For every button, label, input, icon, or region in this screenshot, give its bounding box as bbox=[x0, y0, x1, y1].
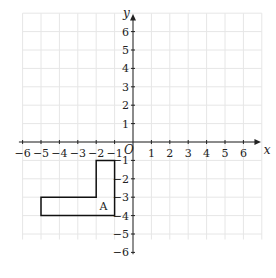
x-tick-label: −3 bbox=[70, 147, 86, 160]
x-tick-label: 2 bbox=[166, 147, 173, 160]
y-tick-label: −5 bbox=[113, 228, 129, 241]
x-tick-label: 4 bbox=[203, 147, 210, 160]
y-tick-label: 4 bbox=[122, 62, 129, 75]
y-tick-label: 1 bbox=[122, 118, 129, 131]
origin-label: O bbox=[124, 143, 134, 157]
y-axis-arrow-icon bbox=[130, 14, 136, 20]
x-tick-label: 3 bbox=[185, 147, 192, 160]
x-tick-label: 6 bbox=[240, 147, 247, 160]
y-tick-label: 6 bbox=[122, 26, 129, 39]
x-tick-label: 1 bbox=[148, 147, 155, 160]
shape-a-label: A bbox=[99, 200, 109, 213]
y-tick-label: 5 bbox=[122, 44, 129, 57]
x-axis-label: x bbox=[264, 143, 271, 157]
coordinate-grid-diagram: −6−5−4−3−2−1123456654321−1−2−3−4−5−6xyOA bbox=[0, 0, 276, 278]
y-axis-label: y bbox=[122, 6, 130, 20]
x-axis-arrow-icon bbox=[254, 139, 260, 145]
x-tick-label: −5 bbox=[33, 147, 49, 160]
plot-svg: −6−5−4−3−2−1123456654321−1−2−3−4−5−6xyOA bbox=[0, 0, 276, 278]
y-tick-label: 2 bbox=[122, 99, 129, 112]
x-tick-label: 5 bbox=[222, 147, 229, 160]
y-tick-label: −6 bbox=[113, 246, 129, 259]
y-tick-label: 3 bbox=[122, 81, 129, 94]
x-tick-label: −6 bbox=[14, 147, 30, 160]
x-tick-label: −2 bbox=[88, 147, 104, 160]
x-tick-label: −4 bbox=[51, 147, 67, 160]
